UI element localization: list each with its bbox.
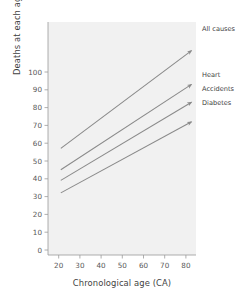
- x-tick-label: 50: [118, 261, 128, 270]
- series-labels: All causes Heart Accidents Diabetes: [202, 25, 236, 107]
- series-label-diabetes: Diabetes: [202, 99, 232, 107]
- x-tick-label: 20: [54, 261, 64, 270]
- y-tick-label: 60: [33, 139, 43, 148]
- y-tick-label: 90: [33, 85, 43, 94]
- y-tick-label: 40: [33, 174, 43, 183]
- x-tick-label: 40: [97, 261, 107, 270]
- series-label-heart: Heart: [202, 71, 221, 79]
- x-tick-labels: 20 30 40 50 60 70 80: [54, 261, 191, 270]
- y-tick-labels: 0 10 20 30 40 50 60 70 80 90 100: [28, 68, 42, 255]
- x-tick-label: 70: [160, 261, 170, 270]
- x-tick-label: 80: [181, 261, 191, 270]
- y-axis-ticks: [45, 72, 49, 250]
- series-label-all-causes: All causes: [202, 25, 236, 33]
- x-axis-ticks: [59, 255, 186, 259]
- y-tick-label: 20: [33, 210, 43, 219]
- y-tick-label: 70: [33, 121, 43, 130]
- y-tick-label: 100: [28, 68, 42, 77]
- x-axis-title: Chronological age (CA): [73, 278, 171, 288]
- y-tick-label: 10: [33, 228, 43, 237]
- x-tick-label: 30: [75, 261, 85, 270]
- plot-panel: [48, 22, 196, 255]
- y-tick-label: 0: [37, 246, 42, 255]
- series-label-accidents: Accidents: [202, 85, 234, 93]
- y-axis-title: Deaths at each age: [12, 0, 22, 75]
- deaths-by-age-chart: 0 10 20 30 40 50 60 70 80 90 100 20 30 4…: [0, 0, 245, 304]
- chart-figure: 0 10 20 30 40 50 60 70 80 90 100 20 30 4…: [0, 0, 245, 304]
- y-tick-label: 30: [33, 192, 43, 201]
- x-tick-label: 60: [139, 261, 149, 270]
- y-tick-label: 50: [33, 157, 43, 166]
- y-tick-label: 80: [33, 103, 43, 112]
